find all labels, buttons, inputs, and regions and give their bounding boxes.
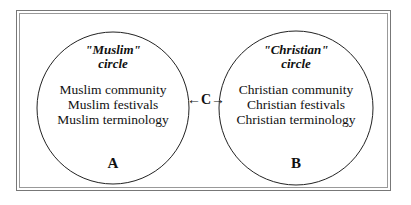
christian-heading-line2: circle: [236, 57, 356, 71]
muslim-item: Muslim community: [43, 82, 183, 97]
circle-label-b: B: [286, 155, 306, 172]
muslim-circle-heading: "Muslim" circle: [53, 43, 173, 71]
christian-item: Christian festivals: [221, 97, 371, 112]
muslim-circle-items: Muslim community Muslim festivals Muslim…: [43, 82, 183, 127]
christian-circle-items: Christian community Christian festivals …: [221, 82, 371, 127]
christian-item: Christian terminology: [221, 112, 371, 127]
christian-circle-heading: "Christian" circle: [236, 43, 356, 71]
circle-label-a: A: [103, 155, 123, 172]
christian-item: Christian community: [221, 82, 371, 97]
muslim-item: Muslim festivals: [43, 97, 183, 112]
muslim-heading-line1: "Muslim": [53, 43, 173, 57]
connector-c: ←C→: [187, 92, 223, 108]
muslim-heading-line2: circle: [53, 57, 173, 71]
muslim-item: Muslim terminology: [43, 112, 183, 127]
christian-heading-line1: "Christian": [236, 43, 356, 57]
